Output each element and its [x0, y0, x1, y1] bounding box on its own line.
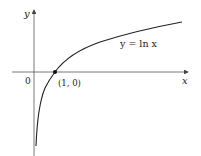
x-axis-label: x: [182, 75, 188, 86]
origin-label: 0: [25, 76, 31, 86]
point-label: (1, 0): [58, 78, 81, 88]
ln-graph: y x 0 (1, 0) y = ln x: [0, 0, 201, 156]
curve-label: y = ln x: [119, 38, 158, 49]
y-axis-label: y: [23, 8, 30, 19]
point-1-0: [53, 70, 57, 74]
